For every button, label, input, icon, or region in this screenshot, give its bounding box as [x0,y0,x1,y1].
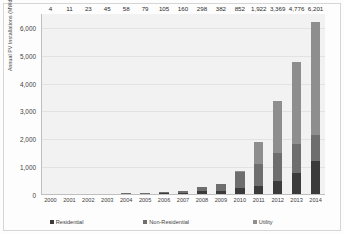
bar-2001[interactable]: 11 [65,14,75,195]
bar-2006[interactable]: 105 [159,14,169,195]
y-tick-label: 2,000 [20,136,36,143]
bar-value-label: 4 [49,6,52,12]
bar-value-label: 1,922 [251,6,266,12]
bar-value-label: 852 [235,6,245,12]
bar-value-label: 298 [197,6,207,12]
bar-value-label: 23 [85,6,92,12]
legend-label: Utility [259,219,273,225]
bar-value-label: 11 [66,6,72,12]
bar-value-label: 160 [178,6,188,12]
bar-segment-residential [273,181,283,195]
bar-2008[interactable]: 298 [197,14,207,195]
bar-2013[interactable]: 4,776 [292,14,302,195]
bar-2010[interactable]: 852 [235,14,245,195]
plot-area: 411234558791051602983828521,9223,3694,77… [41,14,325,195]
x-axis-line [41,194,325,195]
x-tick-label-2012: 2012 [271,197,283,203]
x-axis-tick-labels: 2000200120022003200420052006200720082009… [41,197,325,208]
bar-value-label: 6,201 [308,6,323,12]
y-tick-label: 0 [32,192,36,199]
y-tick-label: 6,000 [20,24,36,31]
bar-segment-non-residential [235,172,245,188]
bar-2014[interactable]: 6,201 [311,14,321,195]
legend-swatch-icon [50,220,54,224]
x-tick-label-2006: 2006 [158,197,170,203]
bar-2004[interactable]: 58 [121,14,131,195]
y-axis-tick-labels: 01,0002,0003,0004,0005,0006,000 [0,14,39,195]
x-tick-label-2003: 2003 [101,197,113,203]
bar-segment-utility [254,142,264,165]
bar-value-label: 3,369 [270,6,285,12]
x-tick-label-2005: 2005 [139,197,151,203]
chart-container: Annual PV Installations (MWdc) 01,0002,0… [0,0,344,234]
legend-swatch-icon [143,220,147,224]
bar-2012[interactable]: 3,369 [273,14,283,195]
bar-value-label: 382 [216,6,226,12]
y-tick-label: 5,000 [20,52,36,59]
x-tick-label-2007: 2007 [177,197,189,203]
x-tick-label-2002: 2002 [82,197,94,203]
legend-item-residential[interactable]: Residential [50,219,83,225]
y-tick-label: 1,000 [20,164,36,171]
bar-segment-utility [311,22,321,135]
x-tick-label-2000: 2000 [44,197,56,203]
bar-value-label: 58 [123,6,130,12]
legend-item-utility[interactable]: Utility [253,219,272,225]
bar-2009[interactable]: 382 [216,14,226,195]
bar-2005[interactable]: 79 [140,14,150,195]
x-tick-label-2009: 2009 [215,197,227,203]
legend-swatch-icon [253,220,257,224]
bar-segment-non-residential [273,153,283,181]
bar-series-group: 411234558791051602983828521,9223,3694,77… [41,14,325,195]
legend-label: Residential [56,219,84,225]
bar-value-label: 45 [104,6,111,12]
legend-item-non-residential[interactable]: Non-Residential [143,219,189,225]
bar-value-label: 105 [159,6,169,12]
bar-segment-non-residential [292,144,302,174]
x-tick-label-2014: 2014 [309,197,321,203]
bar-segment-non-residential [311,135,321,161]
bar-value-label: 4,776 [289,6,304,12]
x-tick-label-2010: 2010 [234,197,246,203]
chart-legend: ResidentialNon-ResidentialUtility [41,216,334,228]
x-tick-label-2013: 2013 [290,197,302,203]
bar-segment-utility [292,62,302,144]
x-tick-label-2011: 2011 [253,197,265,203]
bar-segment-residential [292,173,302,195]
bar-2007[interactable]: 160 [178,14,188,195]
bar-2002[interactable]: 23 [84,14,94,195]
y-tick-label: 3,000 [20,108,36,115]
y-tick-label: 4,000 [20,80,36,87]
bar-2000[interactable]: 4 [46,14,56,195]
legend-label: Non-Residential [149,219,189,225]
bar-value-label: 79 [142,6,149,12]
bar-segment-residential [311,161,321,195]
y-axis-line [41,14,42,195]
x-tick-label-2001: 2001 [63,197,75,203]
x-tick-label-2008: 2008 [196,197,208,203]
bar-2003[interactable]: 45 [103,14,113,195]
bar-segment-non-residential [254,164,264,186]
bar-segment-utility [273,101,283,153]
x-tick-label-2004: 2004 [120,197,132,203]
bar-2011[interactable]: 1,922 [254,14,264,195]
